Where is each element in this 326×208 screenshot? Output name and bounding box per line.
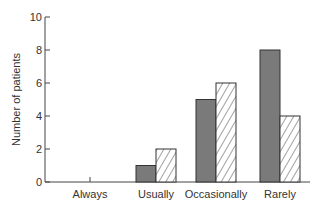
category-label: Occasionally [185, 188, 248, 200]
bar-series-1 [196, 100, 216, 183]
bar-series-1 [136, 166, 156, 183]
y-tick-label: 4 [36, 110, 42, 122]
category-label: Always [73, 188, 108, 200]
bar-series-2 [216, 83, 236, 182]
bar-series-2 [156, 149, 176, 182]
y-axis-title: Number of patients [10, 53, 22, 146]
y-tick-label: 8 [36, 44, 42, 56]
bar-chart: 0246810Number of patientsAlwaysUsuallyOc… [0, 0, 326, 208]
bar-series-1 [260, 50, 280, 182]
y-tick-label: 10 [30, 11, 42, 23]
y-tick-label: 2 [36, 143, 42, 155]
category-label: Rarely [264, 188, 296, 200]
y-tick-label: 0 [36, 176, 42, 188]
bars [136, 50, 300, 182]
category-label: Usually [138, 188, 175, 200]
y-tick-label: 6 [36, 77, 42, 89]
bar-series-2 [280, 116, 300, 182]
